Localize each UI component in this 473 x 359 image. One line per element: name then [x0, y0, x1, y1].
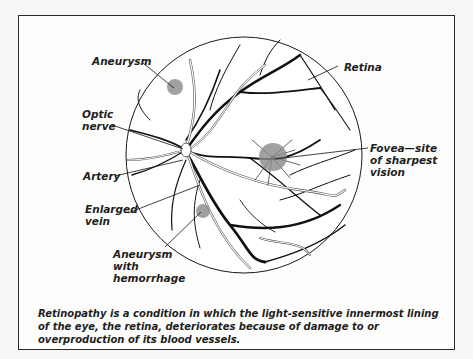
figure-caption: Retinopathy is a condition in which the … — [38, 307, 443, 346]
aneurysm-spot — [167, 79, 183, 95]
label-artery: Artery — [83, 170, 120, 182]
label-retina: Retina — [344, 61, 382, 73]
label-enlarged-vein: Enlarged vein — [85, 203, 138, 227]
label-aneurysm: Aneurysm — [92, 55, 151, 67]
label-fovea: Fovea—site of sharpest vision — [370, 142, 437, 178]
hemorrhage-spot — [196, 204, 210, 218]
fovea-spot — [259, 143, 287, 171]
retina-illustration — [0, 0, 473, 359]
label-aneurysm-hemorrhage: Aneurysm with hemorrhage — [113, 248, 185, 284]
optic-disc — [181, 143, 191, 157]
label-optic-nerve: Optic nerve — [82, 108, 116, 132]
